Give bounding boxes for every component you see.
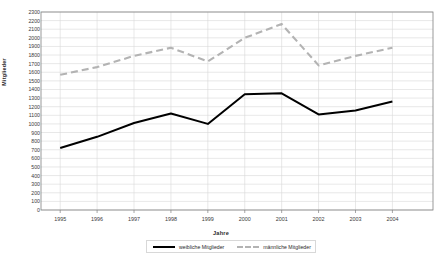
x-tick-label: 1997 — [119, 216, 149, 222]
legend-label: weibliche Mitglieder — [179, 244, 224, 250]
x-tick-label: 2001 — [267, 216, 297, 222]
legend-swatch-solid-line-icon — [153, 246, 175, 248]
x-axis-title: Jahre — [0, 230, 442, 236]
x-tick-label: 1999 — [193, 216, 223, 222]
chart-legend: weibliche Mitglieder männliche Mitgliede… — [146, 240, 316, 253]
x-tick-label: 1996 — [82, 216, 112, 222]
chart-container: Mitglieder 01002003004005006007008009001… — [0, 0, 442, 260]
x-tick-label: 2002 — [304, 216, 334, 222]
x-tick-label: 2000 — [230, 216, 260, 222]
legend-label: männliche Mitglieder — [263, 244, 311, 250]
legend-swatch-dashed-line-icon — [237, 246, 259, 248]
x-axis-tick-labels: 1995199619971998199920002001200220032004 — [0, 0, 442, 260]
x-tick-label: 2004 — [377, 216, 407, 222]
x-tick-label: 1995 — [45, 216, 75, 222]
x-tick-label: 1998 — [156, 216, 186, 222]
x-tick-label: 2003 — [340, 216, 370, 222]
legend-item-maennliche-mitglieder: männliche Mitglieder — [237, 241, 311, 252]
legend-item-weibliche-mitglieder: weibliche Mitglieder — [153, 241, 224, 252]
